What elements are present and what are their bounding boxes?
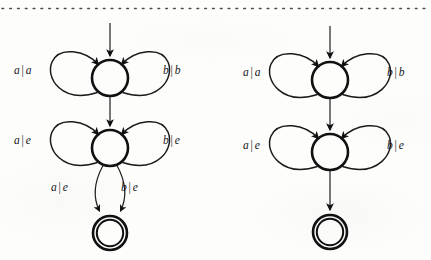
label-output: e <box>399 139 404 151</box>
right-state-p0 <box>312 62 348 98</box>
label-output: e <box>255 139 260 151</box>
label-output: a <box>255 66 261 78</box>
label-output: e <box>133 181 138 193</box>
figure-page: a|a b|b a|e b|e a|e b|e a|a b|b a|e b|e <box>0 0 431 260</box>
left-label-q1-self-left: a|e <box>14 135 31 147</box>
label-output: a <box>26 64 32 76</box>
left-label-q1-q2-right: b|e <box>121 182 138 194</box>
right-label-p0-self-left: a|a <box>243 67 261 79</box>
label-output: e <box>26 134 31 146</box>
right-transition-p1-self-left <box>270 126 319 170</box>
label-output: e <box>63 181 68 193</box>
right-transition-p0-self-left <box>270 54 319 98</box>
right-state-p2-accepting <box>313 215 347 249</box>
left-label-q0-self-left: a|a <box>14 65 32 77</box>
right-label-p0-self-right: b|b <box>387 67 405 79</box>
right-label-p1-self-right: b|e <box>387 140 404 152</box>
left-label-q1-self-right: b|e <box>163 135 180 147</box>
label-output: e <box>175 134 180 146</box>
right-state-p1 <box>312 134 348 170</box>
label-output: b <box>399 66 405 78</box>
left-label-q1-q2-left: a|e <box>51 182 68 194</box>
right-transducer-diagram <box>0 0 431 260</box>
left-label-q0-self-right: b|b <box>163 65 181 77</box>
right-label-p1-self-left: a|e <box>243 140 260 152</box>
right-transition-p0-self-right <box>342 54 391 98</box>
label-output: b <box>175 64 181 76</box>
right-transition-p1-self-right <box>342 126 391 170</box>
